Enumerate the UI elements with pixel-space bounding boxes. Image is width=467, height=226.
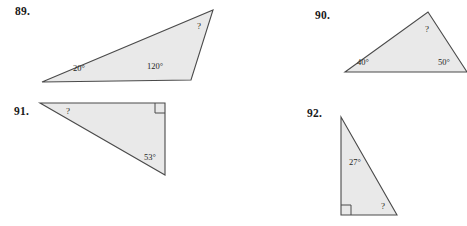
problem-89-angle-120: 120° (147, 62, 163, 71)
problem-91-angle-53: 53° (144, 153, 156, 162)
problem-92-angle-27: 27° (349, 158, 361, 167)
problem-91: 91. ? 53° (0, 98, 234, 226)
triangle-figure-90 (234, 0, 467, 100)
triangle-89-outline (42, 10, 213, 82)
problem-90-angle-50: 50° (438, 58, 450, 67)
triangle-figure-89 (0, 0, 234, 100)
problem-90: 90. 40° 50° ? (234, 0, 467, 100)
triangle-91-outline (40, 103, 165, 175)
problem-89-angle-unknown: ? (197, 22, 201, 31)
problem-89: 89. 20° 120° ? (0, 0, 234, 100)
exercise-page: 89. 20° 120° ? 90. 40° 50° ? 91. ? 53° 9… (0, 0, 467, 226)
problem-89-angle-20: 20° (73, 64, 85, 73)
problem-91-angle-unknown: ? (66, 107, 70, 116)
problem-92-angle-unknown: ? (381, 202, 385, 211)
problem-92: 92. 27° ? (234, 98, 467, 226)
problem-90-angle-40: 40° (357, 58, 369, 67)
problem-90-angle-unknown: ? (425, 25, 429, 34)
triangle-figure-91 (0, 98, 234, 226)
